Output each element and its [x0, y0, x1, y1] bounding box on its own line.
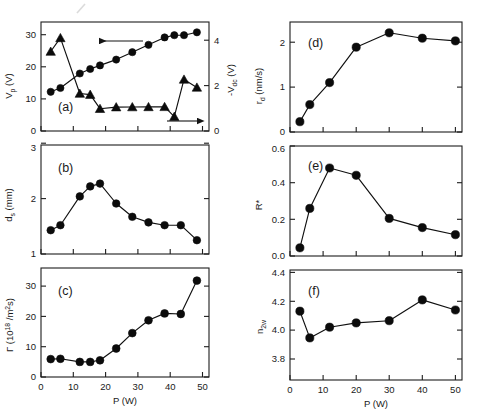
panel-a-tag: (a): [58, 100, 73, 114]
panel-f: 3.8 4.0 4.2 4.4 0 10 20: [254, 267, 462, 409]
panel-f-right-ticks: [457, 272, 462, 359]
panel-b: 1 2 3 ds (mm) (b): [3, 142, 209, 260]
panel-c-series-line: [51, 281, 197, 362]
panel-a-ylabel: Vp (V): [3, 73, 17, 98]
panel-c-xtick-50: 50: [197, 381, 208, 392]
panel-a-x-ticks: [41, 126, 203, 131]
svg-text:Γ (1018 /m2s): Γ (1018 /m2s): [4, 298, 15, 352]
panel-d-right-ticks: [457, 42, 462, 132]
panel-f-xtick-40: 40: [417, 384, 428, 395]
panel-a-ytick-20: 20: [25, 61, 36, 72]
panel-e-ytick-06: 0.6: [272, 143, 285, 154]
panel-c-xtick-40: 40: [165, 381, 176, 392]
panel-b-series-line: [51, 184, 197, 241]
panel-a-ytick-right-0: 0: [214, 125, 219, 136]
panel-e: 0.0 0.2 0.4 0.6 R* (e): [253, 143, 462, 262]
panel-e-ytick-02: 0.2: [272, 214, 285, 225]
panel-a-ytick-right-4: 4: [214, 35, 219, 46]
panel-c-ytick-30: 30: [25, 280, 36, 291]
panel-f-markers: [296, 296, 460, 342]
panel-e-ytick-00: 0.0: [272, 250, 285, 261]
panel-b-ytick-3: 3: [31, 142, 36, 153]
panel-c-xtick-0: 0: [38, 381, 43, 392]
panel-a-right-ticks: 0 2 4: [204, 35, 219, 137]
panel-d-ytick-0: 0: [280, 126, 285, 137]
svg-text:Vp (V): Vp (V): [3, 73, 17, 98]
panel-d: 0 1 2 rd (nm/s) (d): [253, 22, 462, 137]
panel-c-x-ticks: 0 10 20 30 40 50: [38, 372, 207, 392]
panel-e-right-ticks: [457, 183, 462, 256]
panel-c-xtick-30: 30: [133, 381, 144, 392]
panel-c-tag: (c): [58, 284, 73, 298]
panel-f-left-ticks: 3.8 4.0 4.2 4.4: [272, 267, 295, 365]
svg-text:ds (mm): ds (mm): [3, 188, 16, 222]
panel-d-ytick-1: 1: [280, 81, 285, 92]
panel-d-ytick-2: 2: [280, 37, 285, 48]
panel-c-right-ticks: [204, 286, 209, 377]
panel-c-ylabel: Γ (1018 /m2s): [4, 298, 15, 352]
panel-e-ylabel: R*: [253, 199, 264, 210]
panel-a-markers-vp: [47, 29, 200, 96]
panel-a-ytick-30: 30: [25, 29, 36, 40]
svg-text:rd (nm/s): rd (nm/s): [253, 68, 266, 105]
panel-e-tag: (e): [308, 159, 323, 173]
panel-c-xtick-20: 20: [100, 381, 111, 392]
panel-a: 0 10 20 30 0 2 4: [3, 22, 238, 136]
panel-c-ytick-20: 20: [25, 311, 36, 322]
panel-e-ytick-04: 0.4: [272, 177, 285, 188]
panel-a-left-ticks: 0 10 20 30: [25, 29, 46, 136]
panel-c: 0 10 20 30 0 10 20 30: [4, 268, 209, 406]
panel-a-ylabel-right: -Vdc (V): [225, 64, 238, 96]
panel-f-ytick-40: 4.0: [272, 324, 285, 335]
panel-c-ytick-0: 0: [31, 371, 36, 382]
panel-f-xtick-10: 10: [318, 384, 329, 395]
figure-svg: 0 10 20 30 0 2 4: [0, 0, 482, 413]
panel-a-ytick-right-2: 2: [214, 80, 219, 91]
panel-c-xlabel: P (W): [113, 395, 137, 406]
panel-b-ytick-1: 1: [31, 248, 36, 259]
panel-f-ytick-38: 3.8: [272, 353, 285, 364]
panel-f-xtick-0: 0: [287, 384, 292, 395]
panel-d-x-ticks: [290, 127, 455, 132]
panel-e-series-line: [300, 168, 456, 248]
panel-a-ytick-0: 0: [31, 125, 36, 136]
panel-f-tag: (f): [308, 284, 320, 298]
panel-d-ylabel: rd (nm/s): [253, 68, 266, 105]
panel-b-left-ticks: 1 2 3: [31, 142, 46, 260]
panel-b-tag: (b): [58, 161, 73, 175]
panel-e-markers: [296, 164, 460, 252]
panel-f-ylabel: n2w: [254, 320, 267, 334]
svg-text:n2w: n2w: [254, 320, 267, 334]
panel-f-xlabel: P (W): [364, 398, 388, 409]
panel-d-tag: (d): [308, 36, 323, 50]
panel-f-xtick-30: 30: [384, 384, 395, 395]
panel-e-left-ticks: 0.0 0.2 0.4 0.6: [272, 143, 295, 262]
panel-c-ytick-10: 10: [25, 341, 36, 352]
panel-d-left-ticks: 0 1 2: [280, 37, 295, 138]
panel-f-xtick-50: 50: [450, 384, 461, 395]
panel-e-ylabel-text: R*: [253, 199, 264, 210]
panel-a-ytick-10: 10: [25, 93, 36, 104]
panel-f-series-line: [300, 300, 456, 338]
panel-b-ylabel: ds (mm): [3, 188, 16, 222]
svg-text:-Vdc (V): -Vdc (V): [225, 64, 238, 96]
panel-c-xtick-10: 10: [68, 381, 79, 392]
panel-f-ytick-42: 4.2: [272, 296, 285, 307]
panel-b-x-ticks: [41, 249, 203, 254]
panel-b-ytick-2: 2: [31, 193, 36, 204]
panel-e-x-ticks: [290, 251, 455, 256]
panel-b-right-ticks: [204, 143, 209, 254]
figure-panel-grid: 0 10 20 30 0 2 4: [0, 0, 482, 413]
panel-f-ytick-44: 4.4: [272, 267, 285, 278]
panel-c-left-ticks: 0 10 20 30: [25, 280, 46, 382]
panel-f-xtick-20: 20: [351, 384, 362, 395]
panel-f-x-ticks: 0 10 20 30 40 50: [287, 375, 460, 395]
